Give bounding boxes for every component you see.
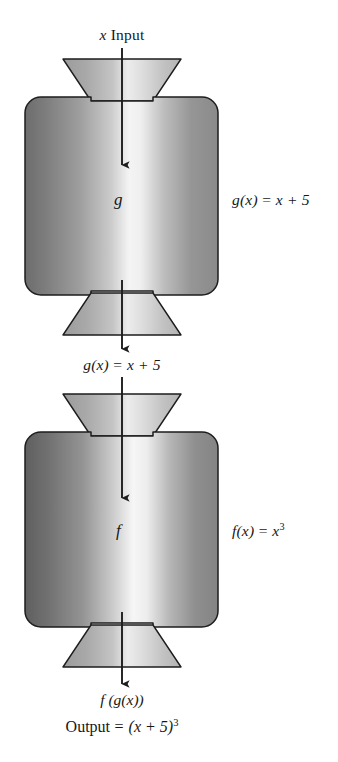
input-word: Input xyxy=(111,26,145,43)
output-composite-expression: f (g(x)) xyxy=(100,691,143,708)
output-composite-label: f (g(x)) xyxy=(100,692,143,708)
rule-f-lhs: f(x) xyxy=(232,522,254,539)
machine-g-rule: g(x) = x + 5 xyxy=(232,192,310,208)
rule-f-exponent: 3 xyxy=(279,521,284,532)
machine-f-rule: f(x) = x3 xyxy=(232,523,285,539)
input-variable: x xyxy=(100,26,107,43)
output-eq: = xyxy=(115,718,125,735)
output-value-label: Output = (x + 5)3 xyxy=(66,719,179,735)
intermediate-lhs: g(x) xyxy=(83,356,109,373)
machine-f-letter: f xyxy=(116,522,121,539)
output-base: (x + 5) xyxy=(129,718,174,735)
output-word: Output xyxy=(66,718,110,735)
diagram-canvas xyxy=(0,0,338,762)
intermediate-label: g(x) = x + 5 xyxy=(83,357,161,373)
function-machine-diagram: x Input g g(x) = x + 5 g(x) = x + 5 f f(… xyxy=(0,0,338,762)
rule-f-eq: = xyxy=(259,522,268,539)
rule-g-lhs: g(x) xyxy=(232,191,258,208)
rule-g-rhs: x + 5 xyxy=(276,191,310,208)
rule-g-eq: = xyxy=(262,191,271,208)
machine-g-letter: g xyxy=(114,191,123,208)
output-exponent: 3 xyxy=(173,717,178,728)
input-label: x Input xyxy=(100,27,145,43)
intermediate-eq: = xyxy=(113,356,122,373)
intermediate-rhs: x + 5 xyxy=(127,356,161,373)
